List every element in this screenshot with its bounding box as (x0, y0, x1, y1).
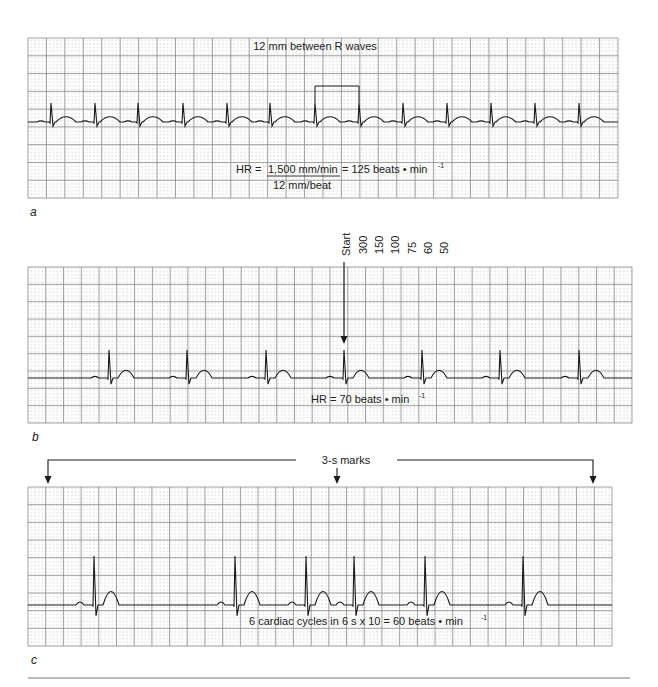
middle-mark-arrowhead (334, 476, 341, 484)
rate-scale-label: 60 (422, 242, 434, 254)
hr-formula-lhs: HR = (236, 163, 261, 175)
panel-label-b: b (32, 430, 39, 444)
hr-formula-rhs: = 125 beats • min (342, 163, 428, 175)
hr-annotation-b: HR = 70 beats • min (311, 393, 409, 405)
ecg-strip-c: 3-s marks 6 cardiac cycles in 6 s x 10 =… (28, 454, 612, 667)
hr-annotation-c: 6 cardiac cycles in 6 s x 10 = 60 beats … (249, 615, 463, 627)
rate-scale-labels: Start300150100756050 (340, 233, 450, 256)
rate-scale-label: 50 (438, 242, 450, 254)
hr-formula-numerator: 1,500 mm/min (268, 163, 338, 175)
right-mark-arrowhead (590, 476, 597, 484)
rate-scale-label: 150 (373, 236, 385, 254)
rate-scale-label: 75 (406, 242, 418, 254)
rr-annotation: 12 mm between R waves (253, 40, 377, 52)
hr-annotation-b-sup: -1 (419, 392, 425, 399)
rate-scale-label: Start (340, 233, 352, 256)
three-second-marks-label: 3-s marks (322, 454, 371, 466)
ecg-figure: 12 mm between R waves HR = 1,500 mm/min … (0, 0, 658, 687)
three-second-marks-bracket (48, 460, 593, 477)
ecg-strip-a: 12 mm between R waves HR = 1,500 mm/min … (28, 38, 618, 219)
hr-formula-rhs-sup: -1 (438, 162, 444, 169)
panel-label-c: c (31, 653, 37, 667)
panel-label-a: a (30, 205, 37, 219)
rate-scale-label: 300 (357, 236, 369, 254)
ecg-strip-b: Start300150100756050 HR = 70 beats • min… (28, 233, 632, 444)
hr-formula-denominator: 12 mm/beat (273, 179, 331, 191)
rate-scale-label: 100 (389, 236, 401, 254)
left-mark-arrowhead (45, 476, 52, 484)
hr-annotation-c-sup: -1 (481, 614, 487, 621)
